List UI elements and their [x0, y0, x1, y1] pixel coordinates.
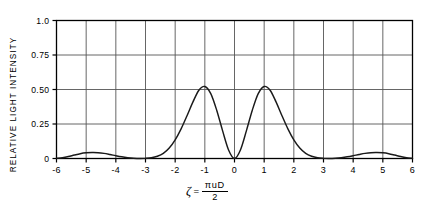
grid-lines [57, 21, 413, 159]
diffraction-intensity-figure: RELATIVE LIGHT INTENSITY 00.250.500.751.… [0, 0, 430, 209]
svg-text:-4: -4 [112, 165, 121, 175]
svg-text:1.0: 1.0 [36, 16, 49, 26]
svg-text:0.50: 0.50 [31, 85, 49, 95]
svg-text:-6: -6 [52, 165, 61, 175]
svg-text:-5: -5 [82, 165, 91, 175]
svg-text:0.75: 0.75 [31, 50, 49, 60]
svg-text:4: 4 [351, 165, 356, 175]
svg-text:-1: -1 [201, 165, 210, 175]
y-axis-ticks: 00.250.500.751.0 [31, 16, 56, 164]
svg-text:-2: -2 [171, 165, 180, 175]
svg-text:1: 1 [262, 165, 267, 175]
svg-text:0: 0 [232, 165, 237, 175]
svg-text:3: 3 [321, 165, 326, 175]
svg-text:6: 6 [410, 165, 415, 175]
svg-text:2: 2 [291, 165, 296, 175]
svg-text:-3: -3 [141, 165, 150, 175]
chart-canvas: 00.250.500.751.0 -6-5-4-3-2-10123456 [0, 0, 430, 209]
svg-text:0.25: 0.25 [31, 119, 49, 129]
x-axis-ticks: -6-5-4-3-2-10123456 [52, 159, 415, 176]
svg-text:5: 5 [380, 165, 385, 175]
svg-text:0: 0 [44, 154, 49, 164]
